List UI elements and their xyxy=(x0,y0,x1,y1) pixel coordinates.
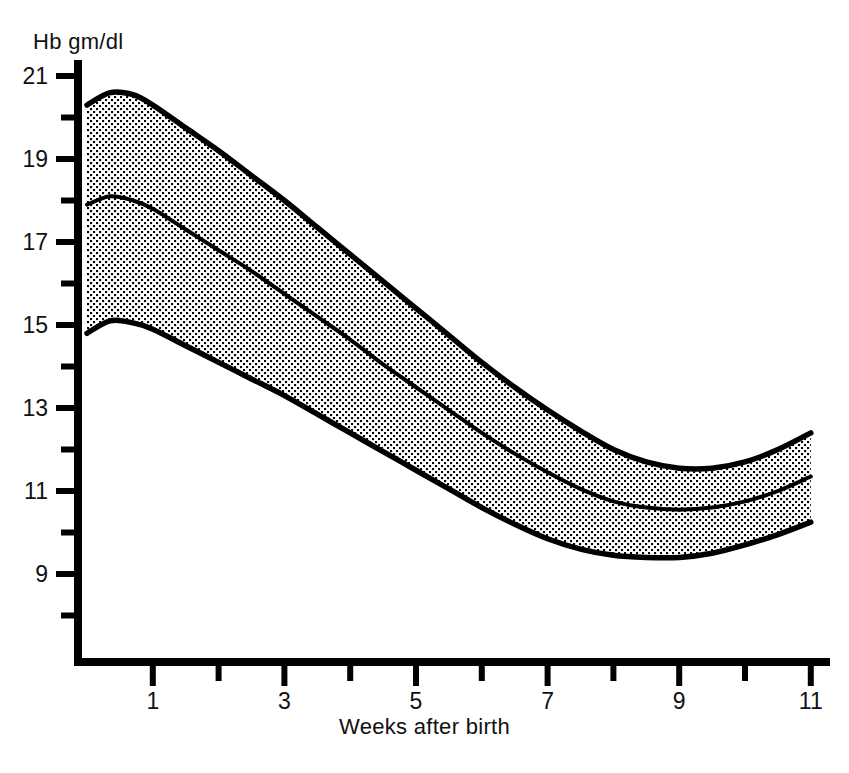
y-tick-label: 17 xyxy=(22,229,48,256)
shaded-range-band xyxy=(87,92,811,558)
y-tick-label: 21 xyxy=(22,63,48,90)
x-tick-label: 3 xyxy=(278,688,291,715)
y-axis-title: Hb gm/dl xyxy=(33,29,123,55)
x-tick-label: 5 xyxy=(410,688,423,715)
chart-container: Hb gm/dl Weeks after birth 9111315171921… xyxy=(0,0,849,773)
y-tick-label: 9 xyxy=(35,561,48,588)
chart-plot-area xyxy=(0,0,849,773)
y-tick-label: 11 xyxy=(24,478,48,505)
x-tick-label: 9 xyxy=(673,688,686,715)
x-tick-label: 1 xyxy=(146,688,159,715)
y-tick-label: 13 xyxy=(22,395,48,422)
x-tick-label: 7 xyxy=(541,688,554,715)
y-tick-label: 15 xyxy=(22,312,48,339)
y-tick-label: 19 xyxy=(22,146,48,173)
x-tick-label: 11 xyxy=(799,688,823,715)
x-axis-title: Weeks after birth xyxy=(0,714,849,740)
